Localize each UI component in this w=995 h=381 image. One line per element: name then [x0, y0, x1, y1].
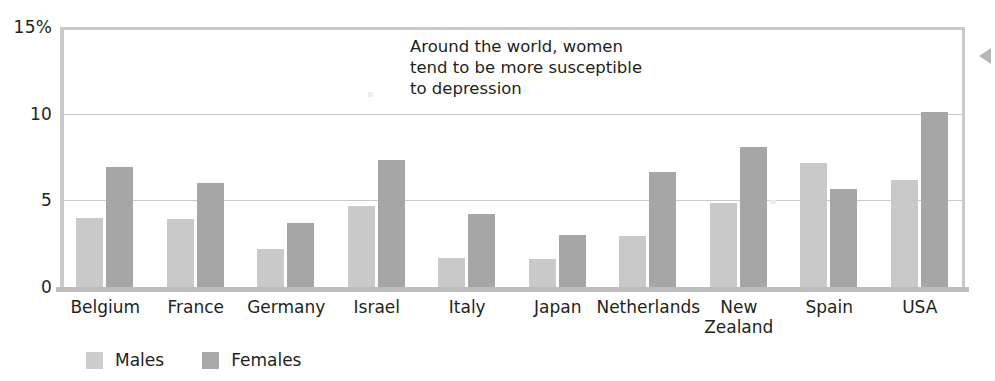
bar-males-france	[167, 219, 194, 287]
females-swatch-icon	[202, 352, 219, 369]
bar-males-belgium	[76, 218, 103, 287]
scan-artifact	[770, 200, 776, 204]
x-axis-label-usa: USA	[850, 297, 990, 317]
chart-annotation: Around the world, women tend to be more …	[410, 36, 642, 99]
bar-males-usa	[891, 180, 918, 287]
bar-males-italy	[438, 258, 465, 287]
legend: Males Females	[86, 352, 301, 369]
bar-males-japan	[529, 259, 556, 287]
triangle-left-icon	[979, 48, 991, 64]
bar-females-israel	[378, 160, 405, 287]
legend-label-males: Males	[115, 352, 164, 369]
bar-males-spain	[800, 163, 827, 287]
bar-males-israel	[348, 206, 375, 287]
legend-item-males[interactable]: Males	[86, 352, 164, 369]
legend-item-females[interactable]: Females	[202, 352, 301, 369]
bar-females-belgium	[106, 167, 133, 287]
bar-females-new-zealand	[740, 147, 767, 287]
x-axis-baseline	[56, 287, 969, 292]
bar-females-germany	[287, 223, 314, 287]
scan-artifact	[368, 92, 373, 97]
bar-females-japan	[559, 235, 586, 287]
bar-females-italy	[468, 214, 495, 287]
bar-males-netherlands	[619, 236, 646, 287]
males-swatch-icon	[86, 352, 103, 369]
bar-males-germany	[257, 249, 284, 287]
bar-chart: 051015% BelgiumFranceGermanyIsraelItalyJ…	[0, 0, 995, 381]
bar-females-spain	[830, 189, 857, 287]
legend-label-females: Females	[231, 352, 301, 369]
bar-females-usa	[921, 112, 948, 287]
bar-males-new-zealand	[710, 203, 737, 287]
bar-females-netherlands	[649, 172, 676, 287]
bar-females-france	[197, 183, 224, 287]
